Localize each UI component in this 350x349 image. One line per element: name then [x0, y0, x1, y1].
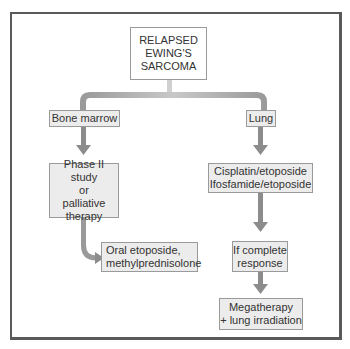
node-text: Cisplatin/etoposide — [214, 165, 307, 178]
node-text: EWING'S — [145, 47, 192, 60]
node-text: Oral etoposide, — [106, 244, 181, 257]
node-text: RELAPSED — [139, 34, 198, 47]
node-cisplatin-ifosfamide: Cisplatin/etoposide Ifosfamide/etoposide — [208, 163, 313, 193]
node-text: Ifosfamide/etoposide — [210, 178, 312, 191]
node-text: Megatherapy — [229, 301, 293, 314]
node-text: SARCOMA — [141, 60, 197, 73]
node-text: + lung irradiation — [220, 314, 302, 327]
node-bone-marrow: Bone marrow — [49, 110, 120, 127]
node-text: Lung — [249, 112, 273, 125]
node-oral-etoposide: Oral etoposide, methylprednisolone — [101, 242, 198, 272]
node-text: Bone marrow — [52, 112, 117, 125]
node-text: If complete — [233, 244, 287, 257]
node-if-complete-response: If complete response — [232, 241, 288, 272]
node-phase-ii-study: Phase II study or palliative therapy — [49, 163, 119, 218]
node-relapsed-ewings-sarcoma: RELAPSED EWING'S SARCOMA — [130, 27, 207, 80]
node-text: response — [237, 257, 282, 270]
node-text: or — [79, 184, 89, 197]
node-text: methylprednisolone — [106, 257, 201, 270]
node-text: palliative — [63, 197, 106, 210]
node-lung: Lung — [246, 110, 276, 127]
node-megatherapy: Megatherapy + lung irradiation — [219, 298, 303, 330]
node-text: Phase II study — [50, 158, 118, 184]
node-text: therapy — [66, 210, 103, 223]
